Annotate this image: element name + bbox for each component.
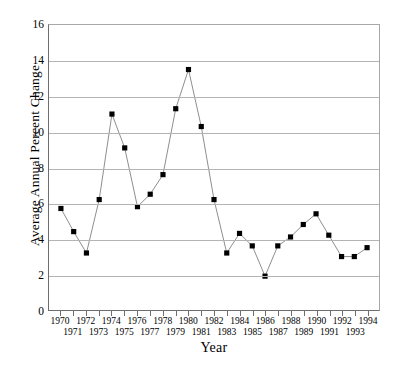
- data-point-marker: [97, 197, 102, 202]
- y-axis-tick-label: 4: [26, 234, 44, 245]
- data-point-marker: [148, 192, 153, 197]
- series-line: [61, 70, 367, 277]
- data-point-marker: [237, 231, 242, 236]
- data-point-marker: [211, 197, 216, 202]
- series-line-and-markers: [49, 25, 379, 310]
- gridline: [49, 133, 379, 134]
- data-point-marker: [288, 234, 293, 239]
- data-point-marker: [301, 222, 306, 227]
- y-axis-tick-label: 0: [26, 306, 44, 317]
- gridline: [49, 276, 379, 277]
- data-point-marker: [199, 124, 204, 129]
- data-point-marker: [224, 250, 229, 255]
- data-point-marker: [352, 254, 357, 259]
- y-axis-tick-label: 10: [26, 126, 44, 137]
- chart-figure: Average Annual Percent Change 0246810121…: [0, 0, 401, 368]
- data-point-marker: [84, 250, 89, 255]
- plot-area: [48, 24, 380, 311]
- gridline: [49, 240, 379, 241]
- y-axis-tick-label: 14: [26, 54, 44, 65]
- y-axis-tick-label: 12: [26, 90, 44, 101]
- data-point-marker: [250, 243, 255, 248]
- x-axis-tick-label: 1994: [353, 316, 383, 327]
- data-point-marker: [339, 254, 344, 259]
- y-axis-tick-label: 6: [26, 198, 44, 209]
- data-point-marker: [186, 67, 191, 72]
- y-axis-tick-labels: 0246810121416: [26, 0, 44, 368]
- data-point-marker: [109, 111, 114, 116]
- data-point-marker: [275, 243, 280, 248]
- gridline: [49, 97, 379, 98]
- data-point-marker: [71, 229, 76, 234]
- data-point-marker: [326, 233, 331, 238]
- data-point-marker: [122, 145, 127, 150]
- data-point-marker: [160, 172, 165, 177]
- gridline: [49, 61, 379, 62]
- gridline: [49, 204, 379, 205]
- data-point-marker: [313, 211, 318, 216]
- data-point-marker: [364, 245, 369, 250]
- x-axis-tick-label: 1993: [340, 327, 370, 338]
- gridline: [49, 169, 379, 170]
- y-axis-tick-label: 8: [26, 162, 44, 173]
- y-axis-tick-label: 2: [26, 270, 44, 281]
- y-axis-tick-label: 16: [26, 19, 44, 30]
- data-point-marker: [58, 206, 63, 211]
- data-point-marker: [173, 106, 178, 111]
- x-axis-title: Year: [48, 340, 380, 356]
